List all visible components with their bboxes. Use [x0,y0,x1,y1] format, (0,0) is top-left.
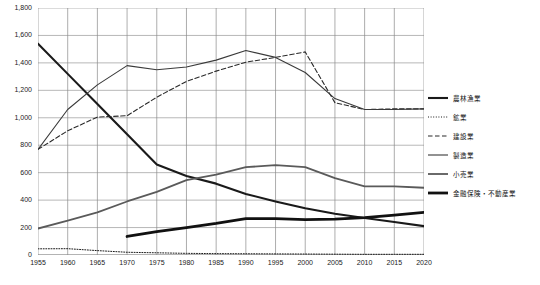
legend-swatch-icon [428,93,448,103]
legend-swatch-icon [428,112,448,122]
series-line-3 [38,51,424,150]
y-axis-tick-label: 600 [0,169,32,177]
legend-label: 農林漁業 [453,93,481,103]
legend-item[interactable]: 小売業 [428,164,540,183]
y-axis-tick-label: 1,200 [0,86,32,94]
legend-swatch-icon [428,150,448,160]
legend-item[interactable]: 鉱業 [428,107,540,126]
legend-label: 小売業 [453,169,474,179]
chart-legend: 農林漁業鉱業建設業製造業小売業金融保険・不動産業 [428,88,540,202]
y-axis-tick-label: 800 [0,141,32,149]
legend-swatch-icon [428,169,448,179]
line-chart: 02004006008001,0001,2001,4001,6001,800 1… [0,0,540,285]
y-axis-tick-label: 1,600 [0,31,32,39]
x-axis-tick-label: 2020 [407,259,441,267]
series-line-2 [38,52,424,149]
plot-svg [38,8,424,255]
legend-item[interactable]: 金融保険・不動産業 [428,183,540,202]
legend-label: 製造業 [453,150,474,160]
legend-label: 建設業 [453,131,474,141]
y-axis-tick-label: 1,400 [0,59,32,67]
y-axis-tick-label: 400 [0,196,32,204]
plot-area [38,8,424,255]
y-axis-tick-label: 200 [0,224,32,232]
series-line-0 [38,44,424,227]
legend-swatch-icon [428,131,448,141]
legend-swatch-icon [428,188,448,198]
y-axis-tick-label: 0 [0,251,32,259]
legend-item[interactable]: 建設業 [428,126,540,145]
y-axis-tick-label: 1,800 [0,4,32,12]
legend-label: 鉱業 [453,112,467,122]
legend-item[interactable]: 製造業 [428,145,540,164]
legend-label: 金融保険・不動産業 [453,188,516,198]
legend-item[interactable]: 農林漁業 [428,88,540,107]
y-axis-tick-label: 1,000 [0,114,32,122]
series-line-1 [38,249,424,255]
